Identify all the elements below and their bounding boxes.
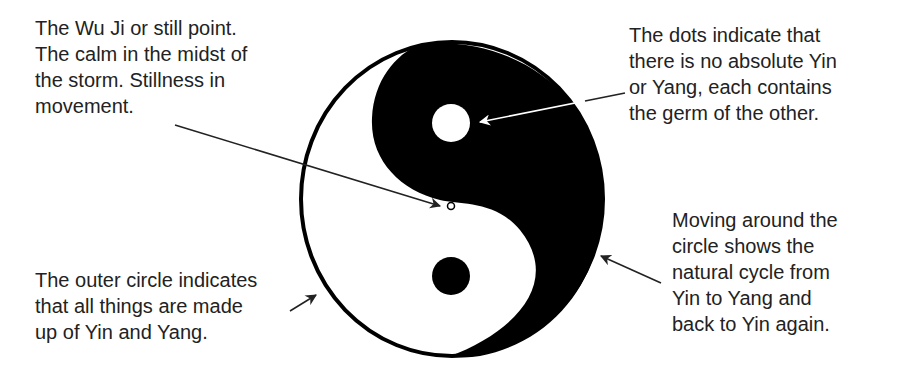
yin-yang-symbol — [301, 42, 603, 357]
arrow-outer-circle — [290, 295, 316, 311]
annotation-line: circle shows the — [672, 233, 838, 259]
annotation-dots: The dots indicate that there is no absol… — [629, 22, 837, 126]
arrow-dots-outside — [585, 93, 625, 101]
annotation-line: The outer circle indicates — [35, 267, 257, 293]
annotation-wu-ji: The Wu Ji or still point. The calm in th… — [35, 15, 247, 119]
white-dot — [432, 104, 470, 142]
annotation-line: up of Yin and Yang. — [35, 319, 257, 345]
annotation-line: The calm in the midst of — [35, 41, 247, 67]
annotation-line: there is no absolute Yin — [629, 48, 837, 74]
annotation-line: the germ of the other. — [629, 100, 837, 126]
annotation-line: Yin to Yang and — [672, 285, 838, 311]
annotation-line: the storm. Stillness in — [35, 67, 247, 93]
annotation-line: The dots indicate that — [629, 22, 837, 48]
annotation-line: back to Yin again. — [672, 311, 838, 337]
annotation-line: Moving around the — [672, 207, 838, 233]
annotation-line: The Wu Ji or still point. — [35, 15, 247, 41]
annotation-cycle: Moving around the circle shows the natur… — [672, 207, 838, 337]
annotation-outer-circle: The outer circle indicates that all thin… — [35, 267, 257, 345]
arrow-cycle — [601, 256, 661, 283]
annotation-line: that all things are made — [35, 293, 257, 319]
annotation-line: movement. — [35, 93, 247, 119]
still-point — [448, 203, 455, 210]
annotation-line: natural cycle from — [672, 259, 838, 285]
annotation-line: or Yang, each contains — [629, 74, 837, 100]
black-dot — [432, 257, 470, 295]
